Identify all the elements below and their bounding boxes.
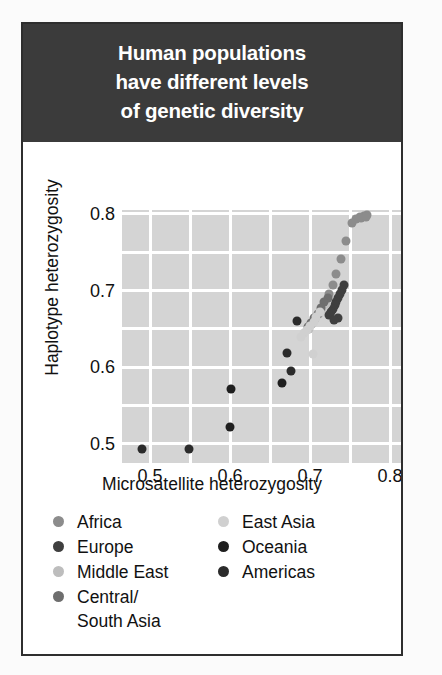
- gridline-vertical: [309, 210, 312, 463]
- gridline-vertical: [189, 210, 192, 463]
- legend-marker-icon: [218, 541, 229, 552]
- gridline-horizontal: [122, 327, 402, 330]
- data-point: [226, 422, 235, 431]
- y-tick-label: 0.6: [69, 357, 115, 378]
- gridline-horizontal: [122, 442, 402, 445]
- data-point: [278, 378, 287, 387]
- legend-item[interactable]: East Asia: [218, 510, 315, 535]
- gridline-vertical: [349, 210, 352, 463]
- legend-marker-icon: [218, 566, 229, 577]
- legend-label: Americas: [242, 560, 315, 584]
- title-line-1: Human populations: [23, 38, 401, 67]
- legend-column-left: AfricaEuropeMiddle EastCentral/ South As…: [53, 510, 168, 635]
- data-point: [332, 270, 341, 279]
- title-line-2: have different levels: [23, 67, 401, 96]
- gridline-horizontal: [122, 289, 402, 292]
- legend-item[interactable]: Africa: [53, 510, 168, 535]
- data-point: [309, 349, 318, 358]
- gridline-vertical: [269, 210, 272, 463]
- gridline-horizontal: [122, 251, 402, 254]
- data-point: [293, 316, 302, 325]
- y-tick-label: 0.5: [69, 433, 115, 454]
- title-text-block: Human populations have different levels …: [23, 38, 401, 125]
- legend-item[interactable]: Middle East: [53, 560, 168, 585]
- legend-item[interactable]: Central/ South Asia: [53, 585, 168, 635]
- legend-label: Middle East: [77, 560, 168, 584]
- data-point: [138, 444, 147, 453]
- gridline-vertical: [389, 210, 392, 463]
- data-point: [362, 213, 371, 222]
- data-point: [297, 332, 306, 341]
- legend-marker-icon: [53, 591, 64, 602]
- x-axis-label: Microsatellite heterozygosity: [23, 474, 401, 495]
- legend-label: Europe: [77, 535, 133, 559]
- legend-item[interactable]: Europe: [53, 535, 168, 560]
- scatter-panel: [122, 210, 402, 463]
- data-point: [342, 237, 351, 246]
- legend-item[interactable]: Americas: [218, 560, 315, 585]
- y-tick-label: 0.7: [69, 280, 115, 301]
- data-point: [328, 280, 337, 289]
- figure-container: Human populations have different levels …: [21, 22, 403, 656]
- data-point: [286, 367, 295, 376]
- data-point: [185, 444, 194, 453]
- legend-label: East Asia: [242, 510, 315, 534]
- y-axis-label: Haplotype heterozygosity: [42, 153, 63, 403]
- legend-label: Central/ South Asia: [77, 585, 161, 633]
- title-line-3: of genetic diversity: [23, 96, 401, 125]
- legend-marker-icon: [218, 516, 229, 527]
- legend-label: Oceania: [242, 535, 307, 559]
- y-axis-ticks: 0.50.60.70.8: [69, 210, 115, 463]
- gridline-horizontal: [122, 366, 402, 369]
- data-point: [347, 219, 356, 228]
- data-point: [337, 254, 346, 263]
- legend-column-right: East AsiaOceaniaAmericas: [218, 510, 315, 585]
- title-banner: Human populations have different levels …: [23, 24, 401, 142]
- legend-marker-icon: [53, 541, 64, 552]
- data-point: [330, 315, 339, 324]
- legend-item[interactable]: Oceania: [218, 535, 315, 560]
- plot-area: Haplotype heterozygosity 0.50.60.70.8 0.…: [23, 142, 401, 656]
- legend-marker-icon: [53, 516, 64, 527]
- data-point: [226, 385, 235, 394]
- y-tick-label: 0.8: [69, 203, 115, 224]
- gridline-vertical: [149, 210, 152, 463]
- gridline-horizontal: [122, 404, 402, 407]
- legend-label: Africa: [77, 510, 122, 534]
- legend-marker-icon: [53, 566, 64, 577]
- data-point: [283, 348, 292, 357]
